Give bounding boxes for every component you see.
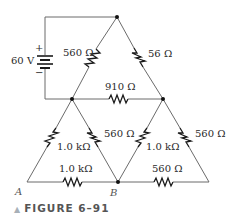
node-label-b: B — [109, 187, 117, 198]
battery-minus: − — [35, 67, 43, 78]
junction-top — [115, 15, 119, 19]
circuit-diagram: + − 60 V 560 Ω 56 Ω 910 Ω 1.0 kΩ 560 Ω 1… — [0, 0, 235, 220]
resistor-top-right — [132, 48, 145, 67]
label-right-inner: 1.0 kΩ — [146, 141, 179, 152]
junction-left — [70, 97, 74, 101]
figure-caption: ▲FIGURE 6–91 — [14, 202, 109, 214]
label-top-right: 56 Ω — [148, 48, 172, 59]
caption-marker-icon: ▲ — [14, 205, 21, 214]
label-right-outer: 560 Ω — [195, 128, 226, 139]
resistor-right-outer — [178, 128, 191, 147]
label-top-left: 560 Ω — [63, 47, 94, 58]
label-left-outer: 1.0 kΩ — [57, 141, 90, 152]
label-bottom-right: 560 Ω — [152, 163, 183, 174]
label-bottom-left: 1.0 kΩ — [59, 163, 92, 174]
resistor-bottom-left — [63, 178, 82, 186]
resistor-bottom-right — [154, 178, 173, 186]
label-left-inner: 560 Ω — [104, 128, 135, 139]
label-middle: 910 Ω — [105, 81, 136, 92]
junction-b — [116, 180, 120, 184]
junction-right — [161, 97, 165, 101]
resistor-middle — [109, 95, 128, 103]
caption-text: FIGURE 6–91 — [24, 202, 109, 214]
voltage-label: 60 V — [11, 55, 35, 66]
battery-plus: + — [35, 42, 43, 53]
node-label-a: A — [14, 186, 22, 197]
